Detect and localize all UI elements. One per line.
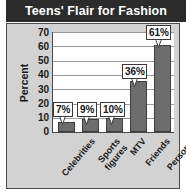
value-tail-sports-figures: [83, 116, 90, 125]
y-tick-70: 70: [27, 28, 49, 38]
value-label-personal-style: 61%: [146, 25, 171, 40]
y-tick-60: 60: [27, 42, 49, 52]
chart-figure: Teens' Flair for Fashion Percent 70 60 5…: [0, 0, 186, 192]
y-tick-40: 40: [27, 70, 49, 80]
y-tick-50: 50: [27, 56, 49, 66]
y-tick-30: 30: [27, 85, 49, 95]
x-label-mtv-line1: MTV: [128, 136, 148, 157]
y-tick-20: 20: [27, 99, 49, 109]
y-tick-10: 10: [27, 113, 49, 123]
x-axis-category-labels: Celebrities Sports figures MTV Friends P…: [52, 134, 173, 188]
value-tail-personal-style: [155, 39, 162, 48]
chart-title: Teens' Flair for Fashion: [6, 0, 186, 22]
value-tail-mtv: [108, 116, 115, 125]
chart-panel: Percent 70 60 50 40 30 20 10 0: [6, 23, 180, 189]
value-label-celebrities: 7%: [53, 102, 73, 117]
y-tick-0: 0: [27, 127, 49, 137]
value-tail-celebrities: [59, 116, 66, 125]
value-label-mtv: 10%: [100, 102, 125, 117]
value-label-sports-figures: 9%: [77, 102, 97, 117]
value-tail-friends: [131, 78, 138, 87]
y-axis-tick-labels: 70 60 50 40 30 20 10 0: [23, 24, 49, 190]
chart-title-bar: Teens' Flair for Fashion: [6, 0, 186, 22]
bar-friends[interactable]: [130, 81, 147, 132]
bar-personal-style[interactable]: [154, 45, 171, 132]
value-label-friends: 36%: [122, 64, 147, 79]
